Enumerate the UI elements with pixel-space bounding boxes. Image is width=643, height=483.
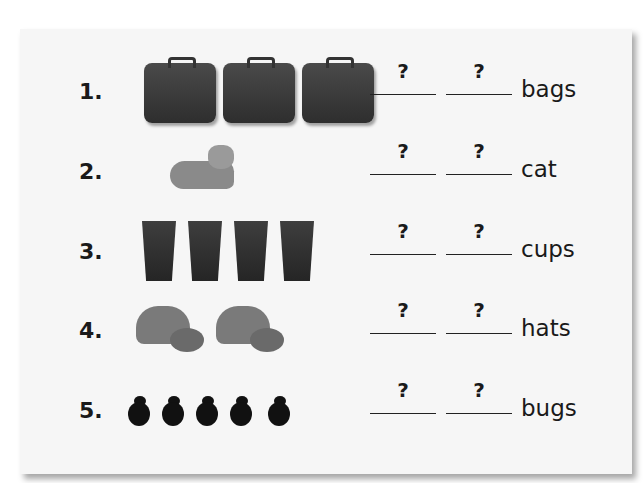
answer-blank-1[interactable]	[370, 413, 436, 414]
item-number: 1.	[79, 79, 103, 104]
suitcase-icon	[302, 63, 374, 123]
answer-blank-1[interactable]	[370, 94, 436, 95]
suitcase-images	[120, 55, 360, 135]
answer-blank-1[interactable]	[370, 174, 436, 175]
item-word: bugs	[521, 395, 577, 421]
answer-blank-2[interactable]	[446, 174, 512, 175]
cup-icon	[280, 221, 314, 281]
blank-answer-2: ?	[446, 139, 512, 163]
answer-blank-2[interactable]	[446, 254, 512, 255]
cup-images	[120, 215, 360, 295]
blank-answer-1: ?	[370, 139, 436, 163]
suitcase-icon	[144, 63, 216, 123]
item-number: 5.	[79, 398, 103, 423]
worksheet-row-1: 1. ? ? bags	[20, 55, 632, 135]
cup-icon	[234, 221, 268, 281]
bug-icon	[264, 394, 294, 428]
answer-blank-2[interactable]	[446, 94, 512, 95]
item-word: hats	[521, 315, 571, 341]
bug-icon	[158, 394, 188, 428]
cat-icon	[170, 143, 244, 193]
answer-blank-2[interactable]	[446, 413, 512, 414]
blank-answer-2: ?	[446, 298, 512, 322]
worksheet-row-5: 5. ? ? bugs	[20, 374, 632, 454]
item-word: cups	[521, 236, 575, 262]
item-number: 4.	[79, 318, 103, 343]
bug-icon	[192, 394, 222, 428]
item-word: bags	[521, 76, 576, 102]
blank-answer-1: ?	[370, 219, 436, 243]
worksheet-card: 1. ? ? bags 2. ? ? cat 3.	[20, 29, 632, 474]
bug-icon	[124, 394, 154, 428]
item-word: cat	[521, 156, 557, 182]
item-number: 3.	[79, 239, 103, 264]
worksheet-row-3: 3. ? ? cups	[20, 215, 632, 295]
bug-images	[120, 374, 360, 454]
hat-icon	[136, 306, 204, 352]
blank-answer-1: ?	[370, 378, 436, 402]
hat-images	[120, 294, 360, 374]
cup-icon	[188, 221, 222, 281]
blank-answer-2: ?	[446, 378, 512, 402]
worksheet-row-4: 4. ? ? hats	[20, 294, 632, 374]
answer-blank-2[interactable]	[446, 333, 512, 334]
blank-answer-2: ?	[446, 59, 512, 83]
answer-blank-1[interactable]	[370, 254, 436, 255]
bug-icon	[226, 394, 256, 428]
cup-icon	[142, 221, 176, 281]
cat-images	[120, 135, 360, 215]
item-number: 2.	[79, 159, 103, 184]
suitcase-icon	[223, 63, 295, 123]
blank-answer-1: ?	[370, 59, 436, 83]
hat-icon	[216, 306, 284, 352]
blank-answer-1: ?	[370, 298, 436, 322]
worksheet-row-2: 2. ? ? cat	[20, 135, 632, 215]
blank-answer-2: ?	[446, 219, 512, 243]
answer-blank-1[interactable]	[370, 333, 436, 334]
